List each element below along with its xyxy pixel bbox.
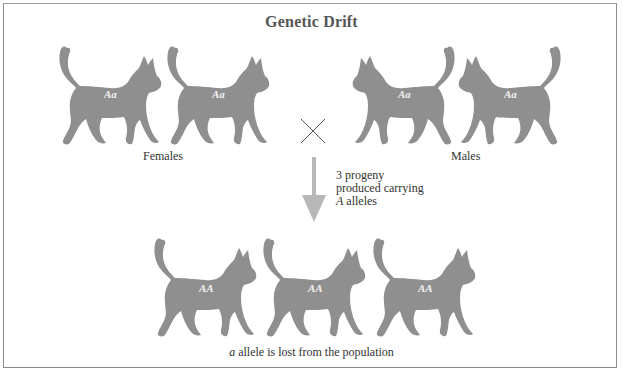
genotype-label: Aa (104, 88, 117, 100)
genotype-label: Aa (212, 88, 225, 100)
figure-title: Genetic Drift (0, 13, 623, 31)
down-arrow-icon (300, 157, 328, 223)
genotype-label: AA (418, 282, 433, 294)
genotype-label: AA (199, 282, 214, 294)
genotype-label: AA (308, 282, 323, 294)
arrow-note-line-3: A alleles (336, 195, 424, 208)
genotype-label: Aa (504, 88, 517, 100)
progeny-caption: a allele is lost from the population (0, 345, 623, 360)
progeny-cat-2: AA (262, 236, 366, 338)
genotype-label: Aa (398, 88, 411, 100)
males-label: Males (451, 149, 480, 164)
cross-symbol-icon (300, 118, 326, 144)
females-label: Females (143, 149, 183, 164)
female-cat-1: Aa (58, 44, 162, 146)
male-cat-1: Aa (352, 44, 456, 146)
male-cat-2: Aa (458, 44, 562, 146)
female-cat-2: Aa (166, 44, 270, 146)
caption-text: allele is lost from the population (235, 345, 394, 359)
progeny-cat-1: AA (153, 236, 257, 338)
arrow-note: 3 progeny produced carrying A alleles (336, 169, 424, 208)
progeny-cat-3: AA (372, 236, 476, 338)
arrow-note-line-3-rest: alleles (343, 194, 377, 208)
